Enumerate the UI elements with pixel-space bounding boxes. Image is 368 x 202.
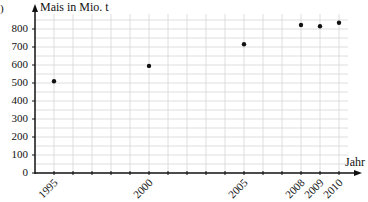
y-tick-label: 600 — [0, 59, 28, 70]
y-tick-label: 700 — [0, 41, 28, 52]
panel-marker: ) — [0, 3, 4, 14]
y-tick-label: 400 — [0, 95, 28, 106]
y-tick-label: 100 — [0, 149, 28, 160]
data-point — [318, 24, 322, 28]
y-tick-label: 200 — [0, 131, 28, 142]
x-axis-arrow-icon — [354, 170, 362, 176]
y-tick-label: 500 — [0, 77, 28, 88]
data-point — [299, 23, 303, 27]
scatter-chart — [0, 0, 368, 202]
y-tick-label: 300 — [0, 113, 28, 124]
y-axis-label: Mais in Mio. t — [40, 2, 109, 13]
data-point — [147, 64, 151, 68]
y-tick-label: 0 — [0, 167, 28, 178]
data-point — [52, 79, 56, 83]
y-axis-arrow-icon — [32, 4, 38, 12]
data-point — [337, 21, 341, 25]
data-point — [242, 42, 246, 46]
y-tick-label: 800 — [0, 23, 28, 34]
x-axis-label: Jahr — [345, 157, 365, 168]
